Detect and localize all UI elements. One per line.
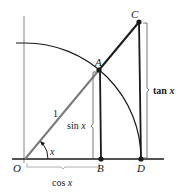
segment-AC <box>99 22 139 70</box>
label-angle: x <box>49 146 55 157</box>
label-B: B <box>97 162 104 174</box>
tan-bracket <box>143 23 149 158</box>
cos-fn: cos <box>52 177 65 188</box>
trig-unit-circle-diagram: O A B C D 1 x sin x cos x tan x <box>0 0 189 196</box>
sin-var: x <box>80 120 86 131</box>
label-cos: cos x <box>52 177 73 188</box>
label-O: O <box>13 162 21 174</box>
label-D: D <box>136 162 145 174</box>
sin-bracket <box>91 72 96 158</box>
unit-circle-arc <box>16 43 141 159</box>
cos-bracket <box>27 163 99 169</box>
label-sin: sin x <box>67 120 86 131</box>
angle-arc <box>43 144 48 159</box>
point-C <box>136 19 141 24</box>
sin-fn: sin <box>67 120 79 131</box>
radius-line-OA <box>25 70 99 159</box>
label-C: C <box>131 8 139 20</box>
label-A: A <box>94 56 102 68</box>
point-A <box>96 67 101 72</box>
point-B <box>98 156 103 161</box>
label-tan: tan x <box>153 85 174 96</box>
cos-var: x <box>67 177 73 188</box>
segment-AB <box>100 70 101 159</box>
point-D <box>138 156 143 161</box>
label-radius: 1 <box>53 108 58 119</box>
tan-var: x <box>168 85 174 96</box>
tan-fn: tan <box>153 85 167 96</box>
